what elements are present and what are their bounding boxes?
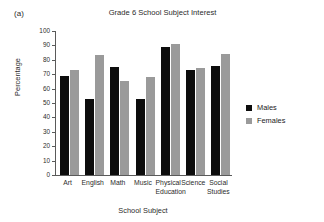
bar-females-math xyxy=(120,81,129,175)
bar-females-physical-education xyxy=(171,44,180,175)
legend-item-females: Females xyxy=(246,114,318,127)
legend-label: Males xyxy=(257,103,277,112)
y-tick-mark xyxy=(52,74,55,75)
y-tick-label: 20 xyxy=(43,141,50,150)
y-tick-label: 50 xyxy=(43,98,50,107)
bar-group xyxy=(110,31,129,175)
bar-males-art xyxy=(60,76,69,175)
legend-item-males: Males xyxy=(246,101,318,114)
chart-title: Grade 6 School Subject Interest xyxy=(55,8,270,18)
y-tick-label: 60 xyxy=(43,84,50,93)
x-tick-label-line1: Social xyxy=(209,179,228,186)
x-axis-title: School Subject xyxy=(55,206,231,216)
y-tick-label: 30 xyxy=(43,127,50,136)
y-tick-label: 90 xyxy=(43,40,50,49)
x-tick-label: Music xyxy=(130,179,155,188)
x-tick-label-line1: Math xyxy=(110,179,125,186)
x-tick-label: Math xyxy=(105,179,130,188)
y-axis-title: Percentage xyxy=(13,32,23,122)
y-tick-mark xyxy=(52,31,55,32)
x-tick-label: SocialStudies xyxy=(206,179,231,196)
bar-females-art xyxy=(70,70,79,175)
x-tick-label-line1: Science xyxy=(181,179,205,186)
panel-letter: (a) xyxy=(14,9,24,19)
y-tick-mark xyxy=(52,103,55,104)
x-tick-label: PhysicalEducation xyxy=(156,179,181,196)
y-axis-line xyxy=(55,31,56,176)
bar-males-physical-education xyxy=(161,47,170,175)
y-tick-mark xyxy=(52,89,55,90)
bar-males-music xyxy=(136,99,145,175)
y-tick-label: 70 xyxy=(43,69,50,78)
y-tick-label: 0 xyxy=(46,170,50,179)
bar-males-science xyxy=(186,70,195,175)
x-tick-label-line2: Education xyxy=(156,188,181,197)
bar-females-english xyxy=(95,55,104,175)
chart-legend: MalesFemales xyxy=(246,101,318,127)
y-tick-mark xyxy=(52,117,55,118)
bar-group xyxy=(60,31,79,175)
bar-group xyxy=(161,31,180,175)
x-tick-label: Science xyxy=(181,179,206,188)
x-tick-label-line2: Studies xyxy=(206,188,231,197)
bar-group xyxy=(85,31,104,175)
x-tick-label: English xyxy=(80,179,105,188)
x-tick-label: Art xyxy=(55,179,80,188)
legend-swatch-females-icon xyxy=(246,118,252,124)
y-tick-mark xyxy=(52,45,55,46)
bar-group xyxy=(211,31,230,175)
bar-group xyxy=(136,31,155,175)
bar-males-english xyxy=(85,99,94,175)
y-tick-label: 80 xyxy=(43,55,50,64)
bar-females-social-studies xyxy=(221,54,230,175)
bar-females-science xyxy=(196,68,205,175)
bar-females-music xyxy=(146,77,155,175)
y-tick-label: 100 xyxy=(39,26,50,35)
x-tick-label-line1: Music xyxy=(134,179,152,186)
plot-area: 1009080706050403020100 ArtEnglishMathMus… xyxy=(55,31,231,175)
y-tick-label: 10 xyxy=(43,156,50,165)
y-tick-mark xyxy=(52,132,55,133)
y-tick-mark xyxy=(52,175,55,176)
y-tick-mark xyxy=(52,60,55,61)
x-tick-label-line1: Physical xyxy=(156,179,181,186)
y-tick-mark xyxy=(52,146,55,147)
legend-swatch-males-icon xyxy=(246,105,252,111)
figure-panel: (a) Grade 6 School Subject Interest 1009… xyxy=(0,0,324,222)
bar-males-math xyxy=(110,67,119,175)
legend-label: Females xyxy=(257,116,285,125)
x-tick-label-line1: Art xyxy=(63,179,72,186)
x-axis-line xyxy=(55,175,232,176)
y-tick-mark xyxy=(52,161,55,162)
bar-group xyxy=(186,31,205,175)
bar-males-social-studies xyxy=(211,66,220,175)
x-tick-label-line1: English xyxy=(82,179,104,186)
y-tick-label: 40 xyxy=(43,112,50,121)
